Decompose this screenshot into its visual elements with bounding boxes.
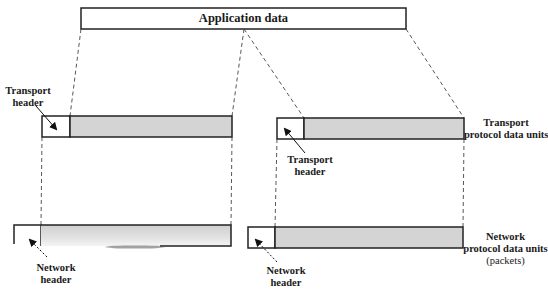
transport-data-box-right bbox=[304, 118, 464, 139]
network-header-label-right: Network header bbox=[260, 265, 312, 289]
network-pdu-right bbox=[248, 227, 463, 248]
transport-header-label-right: Transport header bbox=[280, 154, 340, 178]
transport-pdu-left bbox=[42, 116, 232, 137]
network-data-box-right bbox=[275, 227, 463, 248]
transport-header-label-left: Transport header bbox=[3, 85, 53, 109]
transport-data-box-left bbox=[70, 116, 232, 137]
network-header-box-left bbox=[14, 225, 41, 246]
segmentation-dashed-lines bbox=[70, 29, 464, 118]
network-pdu-label: Network protocol data units (packets) bbox=[463, 231, 548, 267]
network-header-label-left: Network header bbox=[30, 262, 82, 286]
transport-pdu-right bbox=[277, 118, 464, 139]
transport-header-box-left bbox=[42, 116, 70, 137]
application-data-label: Application data bbox=[81, 8, 406, 29]
network-data-box-left bbox=[41, 225, 231, 246]
encapsulation-dashed-lines bbox=[41, 137, 464, 227]
network-pdu-left bbox=[14, 225, 231, 249]
network-header-box-right bbox=[248, 227, 275, 248]
transport-pdu-label: Transport protocol data units bbox=[464, 117, 548, 141]
